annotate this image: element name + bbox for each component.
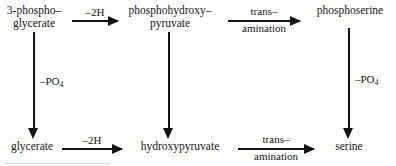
- node-label-line1: phosphoserine: [304, 4, 396, 17]
- arrow-label-text: –PO: [40, 75, 60, 87]
- arrow-label-subscript: 4: [375, 78, 379, 87]
- arrow-label-dephosphorylation: –PO4: [40, 75, 64, 87]
- node-label-line1: glycerate: [2, 140, 62, 153]
- node-label-line1: hydroxypyruvate: [128, 140, 232, 153]
- arrow-label-trans: trans–: [263, 133, 290, 145]
- node-hydroxypyruvate: hydroxypyruvate: [128, 140, 232, 153]
- arrow-head: [343, 128, 353, 139]
- node-3-phosphoglycerate: 3-phospho– glycerate: [0, 4, 68, 30]
- node-serine: serine: [322, 140, 376, 153]
- arrow-head: [163, 128, 173, 139]
- node-label-line1: 3-phospho–: [0, 4, 68, 17]
- arrow-head: [108, 16, 119, 26]
- arrow-shaft: [168, 32, 170, 130]
- arrow-label-amination: amination: [254, 150, 298, 162]
- arrow-head: [112, 144, 123, 154]
- node-label-line2: glycerate: [0, 17, 68, 30]
- node-phosphohydroxypyruvate: phosphohydroxy– pyruvate: [122, 4, 218, 30]
- node-phosphoserine: phosphoserine: [304, 4, 396, 17]
- arrow-head: [28, 128, 38, 139]
- scan-artifact-line: [4, 163, 110, 164]
- arrow-label-dephosphorylation: –PO4: [355, 73, 379, 85]
- arrow-label-dehydrogenation: –2H: [83, 134, 102, 146]
- arrow-head: [304, 144, 315, 154]
- arrow-label-trans: trans–: [251, 5, 278, 17]
- node-label-line1: phosphohydroxy–: [122, 4, 218, 17]
- arrow-label-subscript: 4: [60, 80, 64, 89]
- pathway-diagram: 3-phospho– glycerate phosphohydroxy– pyr…: [0, 0, 396, 166]
- arrow-shaft: [33, 32, 35, 130]
- arrow-label-amination: amination: [242, 22, 286, 34]
- node-label-line1: serine: [322, 140, 376, 153]
- arrow-label-dehydrogenation: –2H: [86, 6, 105, 18]
- arrow-head: [290, 16, 301, 26]
- node-glycerate: glycerate: [2, 140, 62, 153]
- arrow-shaft: [348, 28, 350, 130]
- node-label-line2: pyruvate: [122, 17, 218, 30]
- arrow-label-text: –PO: [355, 73, 375, 85]
